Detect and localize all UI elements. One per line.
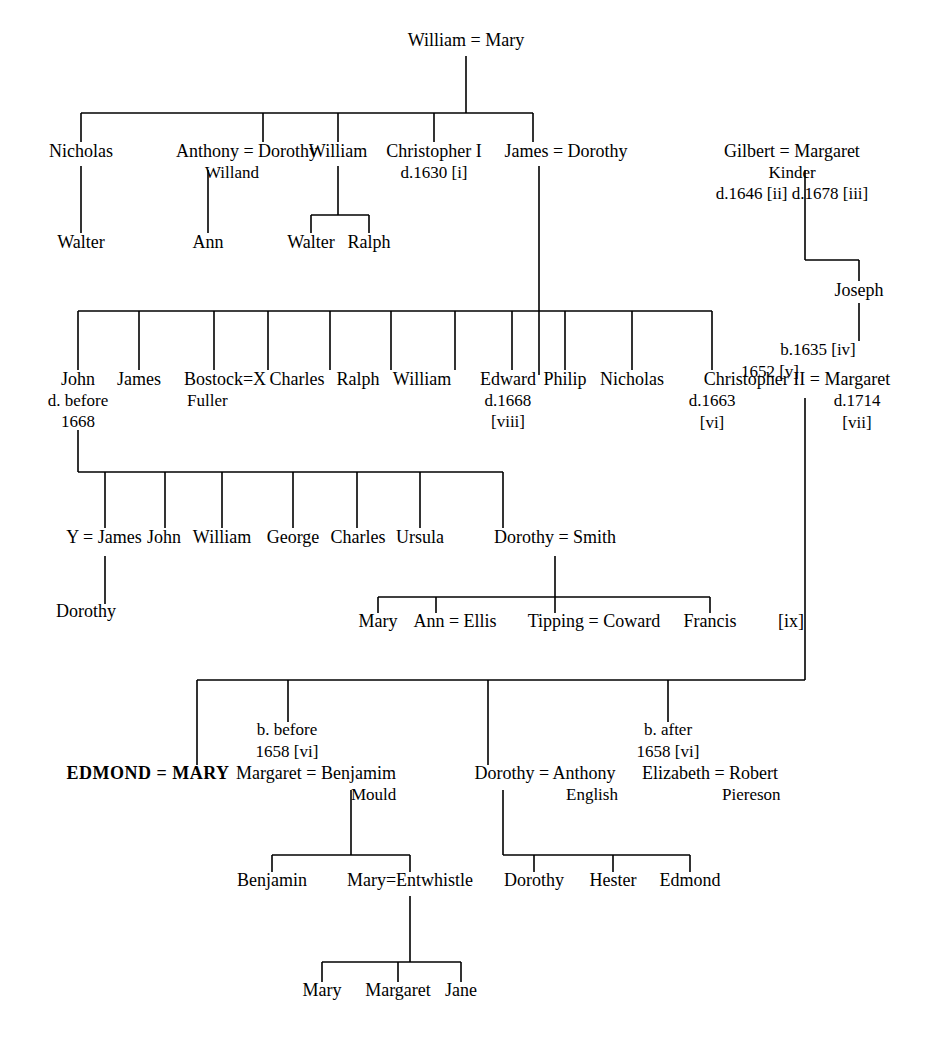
- person-name: Anthony = Dorothy: [176, 141, 318, 162]
- person-node: Nicholas: [600, 369, 664, 390]
- person-node: Joseph: [835, 280, 884, 301]
- person-detail: d. before: [48, 390, 108, 411]
- person-name: Benjamin: [237, 870, 307, 891]
- person-node: Philip: [543, 369, 586, 390]
- person-name: James: [117, 369, 161, 390]
- person-node: Dorothy = Smith: [494, 527, 616, 548]
- person-name: Charles: [331, 527, 386, 548]
- person-name: Jane: [445, 980, 477, 1001]
- person-node: Margaret = Benjamim: [236, 763, 396, 784]
- person-node: Benjamin: [237, 870, 307, 891]
- person-name: Mary: [359, 611, 398, 632]
- person-name: Gilbert = Margaret: [716, 141, 869, 162]
- person-name: Walter: [57, 232, 105, 253]
- person-name: EDMOND = MARY: [66, 763, 229, 784]
- person-detail: d.1630 [i]: [386, 162, 481, 183]
- person-node: Ann = Ellis: [413, 611, 496, 632]
- date-annotation: b. after: [644, 720, 692, 740]
- person-node: James: [117, 369, 161, 390]
- person-name: Mary: [303, 980, 342, 1001]
- person-node: Dorothy: [56, 601, 116, 622]
- person-node: Dorothy = Anthony: [474, 763, 615, 784]
- person-node: Anthony = Dorothy: [176, 141, 318, 162]
- person-node: William: [193, 527, 251, 548]
- person-detail: Fuller: [187, 390, 228, 411]
- person-name: William: [393, 369, 451, 390]
- person-node: James = Dorothy: [504, 141, 627, 162]
- person-detail: [vi]: [700, 412, 725, 433]
- person-detail: d.1663: [689, 390, 736, 411]
- person-node: Nicholas: [49, 141, 113, 162]
- person-node: EDMOND = MARY: [66, 763, 229, 784]
- person-name: James = Dorothy: [504, 141, 627, 162]
- person-name: Edward: [480, 369, 536, 390]
- person-node: Ralph: [337, 369, 380, 390]
- person-node: John: [147, 527, 181, 548]
- person-name: Francis: [684, 611, 737, 632]
- person-node: William: [393, 369, 451, 390]
- person-name: Ursula: [396, 527, 444, 548]
- person-name: Tipping = Coward: [528, 611, 661, 632]
- person-node: Charles: [270, 369, 325, 390]
- person-name: William: [309, 141, 367, 162]
- person-name: Dorothy: [504, 870, 564, 891]
- person-name: Hester: [590, 870, 637, 891]
- person-name: George: [267, 527, 320, 548]
- person-node: Hester: [590, 870, 637, 891]
- person-node: Ursula: [396, 527, 444, 548]
- person-name: Nicholas: [600, 369, 664, 390]
- person-name: Elizabeth = Robert: [642, 763, 778, 784]
- person-node: Ralph: [348, 232, 391, 253]
- person-name: Ralph: [337, 369, 380, 390]
- person-detail: Piereson: [722, 784, 781, 805]
- person-detail: d.1714: [834, 390, 881, 411]
- person-node: Elizabeth = Robert: [642, 763, 778, 784]
- person-node: Edwardd.1668[viii]: [480, 369, 536, 432]
- person-name: William: [193, 527, 251, 548]
- person-detail: Mould: [351, 784, 396, 805]
- person-name: Margaret: [365, 980, 431, 1001]
- person-name: Y = James: [66, 527, 141, 548]
- person-node: Walter: [57, 232, 105, 253]
- person-name: Philip: [543, 369, 586, 390]
- person-node: Gilbert = MargaretKinderd.1646 [ii] d.16…: [716, 141, 869, 204]
- person-node: Dorothy: [504, 870, 564, 891]
- person-name: Ralph: [348, 232, 391, 253]
- date-annotation: 1658 [vi]: [256, 742, 319, 762]
- person-node: Mary=Entwhistle: [347, 870, 473, 891]
- person-name: William = Mary: [408, 30, 524, 51]
- person-name: Ann = Ellis: [413, 611, 496, 632]
- person-node: William = Mary: [408, 30, 524, 51]
- person-detail: d.1646 [ii] d.1678 [iii]: [716, 183, 869, 204]
- person-node: Bostock=X: [184, 369, 266, 390]
- person-name: Margaret = Benjamim: [236, 763, 396, 784]
- person-detail: English: [566, 784, 618, 805]
- date-annotation: b.1635 [iv]: [780, 340, 856, 360]
- person-name: Ann: [193, 232, 224, 253]
- person-node: George: [267, 527, 320, 548]
- person-node: [ix]: [778, 611, 804, 632]
- person-detail: d.1668: [480, 390, 536, 411]
- person-name: Charles: [270, 369, 325, 390]
- person-node: Jane: [445, 980, 477, 1001]
- person-node: Y = James: [66, 527, 141, 548]
- person-node: Francis: [684, 611, 737, 632]
- person-detail: [vii]: [842, 412, 871, 433]
- date-annotation: 1652 [v]: [741, 362, 799, 382]
- person-detail: Willand: [205, 162, 259, 183]
- person-node: Johnd. before1668: [48, 369, 108, 432]
- person-name: John: [147, 527, 181, 548]
- person-name: Dorothy = Anthony: [474, 763, 615, 784]
- family-tree-diagram: William = MaryNicholasAnthony = DorothyW…: [0, 0, 934, 1054]
- person-node: William: [309, 141, 367, 162]
- person-node: Charles: [331, 527, 386, 548]
- person-node: Margaret: [365, 980, 431, 1001]
- person-name: Bostock=X: [184, 369, 266, 390]
- person-name: Christopher I: [386, 141, 481, 162]
- person-node: Tipping = Coward: [528, 611, 661, 632]
- person-detail: 1668: [48, 411, 108, 432]
- person-name: Mary=Entwhistle: [347, 870, 473, 891]
- person-name: Joseph: [835, 280, 884, 301]
- person-detail: [viii]: [480, 411, 536, 432]
- person-name: Dorothy: [56, 601, 116, 622]
